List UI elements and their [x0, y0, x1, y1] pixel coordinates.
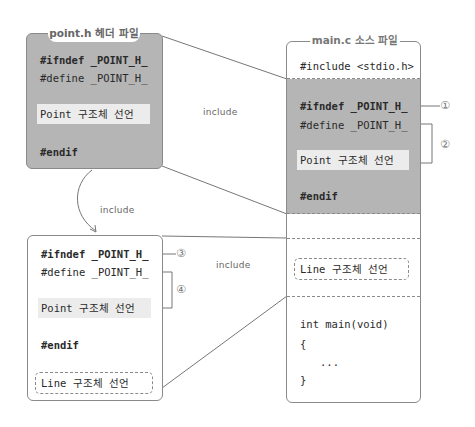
main-open-brace: {	[300, 338, 306, 350]
line-header-ifndef: #ifndef _POINT_H_	[41, 248, 148, 260]
main-ifndef: #ifndef _POINT_H_	[300, 100, 407, 112]
include-label-curve: include	[100, 205, 135, 215]
main-line-decl: Line 구조체 선언	[300, 263, 388, 275]
line-header-point-decl: Point 구조체 선언	[41, 302, 135, 314]
main-define: #define _POINT_H_	[300, 119, 407, 131]
main-divider-4	[287, 296, 420, 297]
marker-2: ②	[440, 138, 450, 151]
line-header-endif: #endif	[41, 339, 79, 351]
main-signature: int main(void)	[300, 318, 389, 330]
main-close-brace: }	[300, 374, 306, 386]
main-divider-1	[287, 78, 420, 79]
main-divider-3	[287, 238, 420, 239]
line-header-define: #define _POINT_H_	[41, 266, 148, 278]
marker-1: ①	[440, 99, 450, 112]
main-endif: #endif	[300, 190, 338, 202]
header-file-title: point.h 헤더 파일	[48, 26, 140, 42]
line-header-line-decl: Line 구조체 선언	[41, 377, 129, 389]
main-divider-2	[287, 213, 420, 214]
header-define: #define _POINT_H_	[40, 72, 147, 84]
header-point-decl: Point 구조체 선언	[40, 108, 134, 120]
main-include-stdio: #include <stdio.h>	[300, 60, 414, 72]
main-file-title: main.c 소스 파일	[310, 33, 400, 49]
include-label-bottom: include	[216, 260, 251, 270]
main-ellipsis: ...	[320, 356, 339, 368]
header-endif: #endif	[40, 146, 78, 158]
header-ifndef: #ifndef _POINT_H_	[40, 54, 147, 66]
main-point-decl: Point 구조체 선언	[300, 154, 394, 166]
marker-3: ③	[176, 247, 186, 260]
marker-4: ④	[176, 283, 186, 296]
include-label-top: include	[203, 107, 238, 117]
